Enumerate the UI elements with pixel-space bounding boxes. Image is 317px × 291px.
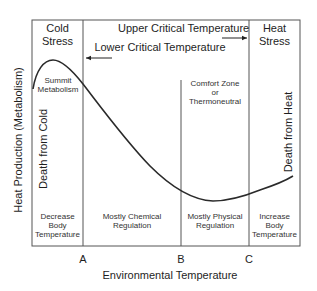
marker-c: C xyxy=(242,253,256,266)
cold-stress-label: ColdStress xyxy=(32,22,83,47)
x-axis-label: Environmental Temperature xyxy=(90,269,250,282)
marker-a: A xyxy=(76,253,90,266)
lower-critical-label: Lower Critical Temperature xyxy=(90,41,230,54)
decrease-body-temp-label: DecreaseBodyTemperature xyxy=(32,212,83,240)
heat-stress-label: HeatStress xyxy=(249,22,300,47)
increase-body-temp-label: IncreaseBodyTemperature xyxy=(249,212,300,240)
summit-metabolism-label: SummitMetabolism xyxy=(34,76,82,94)
death-from-cold-label: Death from Cold xyxy=(37,104,51,194)
chemical-regulation-label: Mostly ChemicalRegulation xyxy=(83,212,181,230)
marker-b: B xyxy=(174,253,188,266)
physical-regulation-label: Mostly PhysicalRegulation xyxy=(181,212,249,230)
comfort-zone-label: Comfort ZoneorThermoneutral xyxy=(183,79,247,107)
upper-critical-label: Upper Critical Temperature xyxy=(118,22,248,35)
death-from-heat-label: Death from Heat xyxy=(282,87,296,177)
y-axis-label: Heat Production (Metabolism) xyxy=(12,61,26,219)
